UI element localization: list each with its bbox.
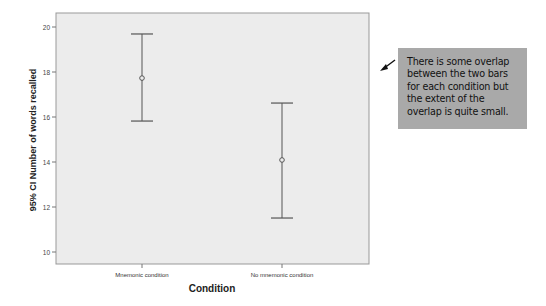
annotation-line: for each condition but: [407, 81, 521, 93]
y-tick-label: 12: [43, 204, 51, 211]
mean-marker: [140, 76, 145, 81]
y-tick-label: 14: [43, 159, 51, 166]
annotation-line: the extent of the: [407, 93, 521, 105]
annotation-line: overlap is quite small.: [407, 106, 521, 118]
x-tick-label: Mnemonic condition: [115, 272, 168, 278]
y-tick-label: 10: [43, 249, 51, 256]
y-axis: 101214161820: [43, 24, 56, 256]
y-axis-label: 95% CI Number of words recalled: [28, 69, 38, 212]
x-axis: Mnemonic conditionNo mnemonic condition: [115, 264, 313, 278]
x-axis-label: Condition: [189, 283, 236, 294]
error-bar-chart: 101214161820 Mnemonic conditionNo mnemon…: [0, 0, 546, 306]
y-tick-label: 18: [43, 69, 51, 76]
x-tick-label: No mnemonic condition: [251, 272, 314, 278]
plot-area: [56, 13, 369, 264]
annotation-note: There is some overlapbetween the two bar…: [398, 48, 527, 129]
mean-marker: [280, 158, 285, 163]
annotation-line: between the two bars: [407, 68, 521, 80]
y-tick-label: 16: [43, 114, 51, 121]
y-tick-label: 20: [43, 24, 51, 31]
annotation-line: There is some overlap: [407, 56, 521, 68]
arrow-icon: [380, 60, 395, 71]
